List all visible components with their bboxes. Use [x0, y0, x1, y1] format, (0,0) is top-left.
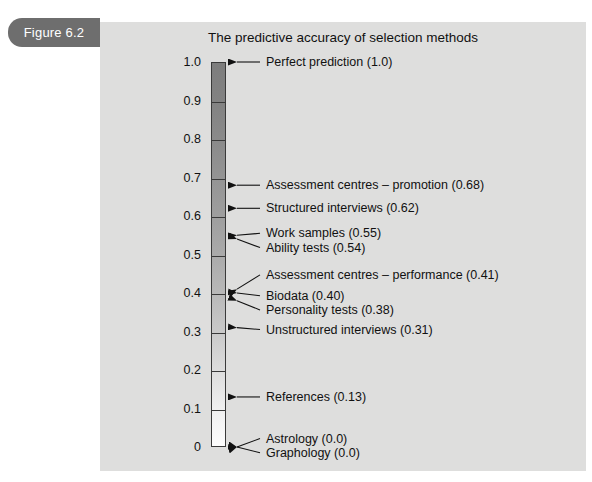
annotation-label: Unstructured interviews (0.31) [266, 323, 433, 337]
annotation-label: Graphology (0.0) [266, 446, 360, 460]
annotation-arrow [237, 239, 260, 247]
annotation-arrow [237, 328, 260, 330]
annotation-label: Perfect prediction (1.0) [266, 55, 392, 69]
annotation-label: Astrology (0.0) [266, 432, 347, 446]
figure-panel: The predictive accuracy of selection met… [100, 22, 586, 471]
annotation-label: References (0.13) [266, 390, 366, 404]
annotation-arrow [237, 447, 260, 453]
annotation-label: Ability tests (0.54) [266, 241, 365, 255]
annotation-arrow [237, 293, 260, 296]
annotation-label: Personality tests (0.38) [266, 303, 394, 317]
annotation-label: Structured interviews (0.62) [266, 201, 419, 215]
figure-number-tab: Figure 6.2 [8, 18, 100, 47]
chart-plot-area: 1.00.90.80.70.60.50.40.30.20.10 Perfect … [100, 22, 586, 471]
annotation-label: Assessment centres – performance (0.41) [266, 268, 499, 282]
annotation-arrow [237, 301, 260, 310]
figure-number-label: Figure 6.2 [24, 25, 85, 40]
annotation-arrow [237, 233, 260, 235]
annotation-arrow [237, 439, 260, 447]
annotation-label: Work samples (0.55) [266, 226, 381, 240]
annotation-arrow [237, 275, 260, 289]
annotation-label: Assessment centres – promotion (0.68) [266, 178, 484, 192]
annotation-label: Biodata (0.40) [266, 289, 345, 303]
